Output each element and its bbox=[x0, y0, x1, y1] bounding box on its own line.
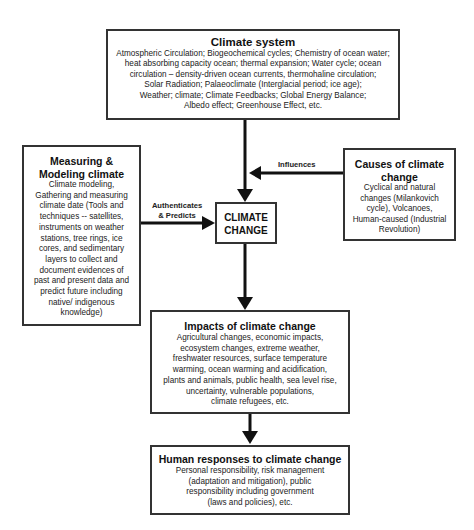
climate-change-box: CLIMATE CHANGE bbox=[215, 202, 277, 244]
arrowhead-icon bbox=[237, 297, 253, 310]
authenticates-label: Authenticates & Predicts bbox=[146, 201, 208, 221]
impacts-box: Impacts of climate change Agricultural c… bbox=[150, 310, 350, 414]
measuring-title: Measuring & Modeling climate bbox=[24, 155, 139, 180]
measuring-body: Climate modeling, Gathering and measurin… bbox=[24, 180, 139, 319]
human-responses-box: Human responses to climate change Person… bbox=[150, 445, 350, 515]
influences-label: Influences bbox=[278, 160, 316, 170]
impacts-body: Agricultural changes, economic impacts, … bbox=[152, 333, 348, 408]
climate-system-box: Climate system Atmospheric Circulation; … bbox=[106, 29, 400, 120]
arrowhead-icon bbox=[237, 189, 253, 202]
responses-body: Personal responsibility, risk management… bbox=[152, 466, 348, 509]
climate-change-title: CLIMATE CHANGE bbox=[217, 211, 275, 237]
arrowhead-icon bbox=[242, 431, 258, 444]
climate-system-title: Climate system bbox=[108, 35, 398, 49]
responses-title: Human responses to climate change bbox=[152, 453, 348, 466]
causes-title: Causes of climate change bbox=[345, 158, 454, 183]
climate-system-body: Atmospheric Circulation; Biogeochemical … bbox=[108, 49, 398, 111]
causes-box: Causes of climate change Cyclical and na… bbox=[343, 148, 456, 241]
impacts-title: Impacts of climate change bbox=[152, 320, 348, 333]
measuring-modeling-box: Measuring & Modeling climate Climate mod… bbox=[22, 145, 141, 326]
causes-body: Cyclical and natural changes (Milankovic… bbox=[345, 183, 454, 236]
arrowhead-icon bbox=[249, 166, 261, 180]
